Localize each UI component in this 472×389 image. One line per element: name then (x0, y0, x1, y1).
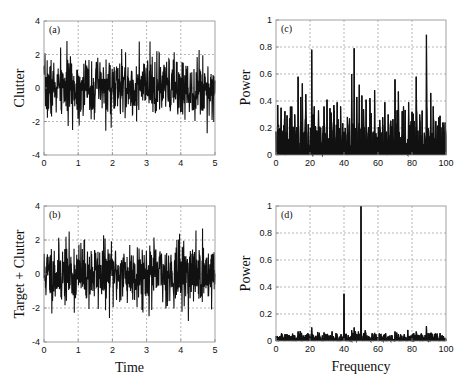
figure: 012345-4-2024(a)Clutter 012345-4-2024(b)… (0, 0, 472, 389)
x-tick-label: 0 (41, 158, 46, 168)
x-tick-label: 40 (339, 158, 349, 168)
x-tick-label: 1 (76, 158, 81, 168)
x-tick-label: 4 (178, 345, 183, 355)
panel-d-target-clutter-power-spectrum: 02040608010000.20.40.60.81(d)PowerFreque… (238, 201, 454, 374)
y-tick-label: 0.4 (259, 96, 272, 106)
y-axis-label: Power (238, 255, 253, 291)
x-tick-label: 4 (178, 158, 183, 168)
y-tick-label: 0.4 (259, 282, 272, 292)
x-tick-label: 3 (144, 158, 149, 168)
x-axis-label: Frequency (331, 359, 390, 374)
x-tick-label: 100 (438, 344, 453, 354)
y-tick-label: 2 (35, 50, 40, 60)
x-tick-label: 3 (144, 345, 149, 355)
x-tick-label: 80 (407, 344, 417, 354)
x-tick-label: 0 (273, 158, 278, 168)
panel-label: (d) (281, 209, 293, 221)
y-tick-label: 0.6 (259, 69, 272, 79)
x-tick-label: 20 (305, 158, 315, 168)
panel-b-target-clutter-time-series: 012345-4-2024(b)Target + ClutterTime (12, 201, 218, 375)
y-tick-label: 0 (267, 150, 272, 160)
x-tick-label: 100 (438, 158, 453, 168)
y-axis-label: Clutter (12, 68, 27, 107)
y-tick-label: -2 (32, 117, 40, 127)
x-tick-label: 60 (373, 344, 383, 354)
x-tick-label: 80 (407, 158, 417, 168)
y-tick-label: 0.2 (259, 123, 272, 133)
spectrum-envelope (276, 206, 446, 341)
x-axis-label: Time (115, 360, 144, 375)
y-tick-label: 0.8 (259, 228, 272, 238)
y-tick-label: 0.6 (259, 255, 272, 265)
y-tick-label: -2 (32, 303, 40, 313)
panel-c-clutter-power-spectrum: 02040608010000.20.40.60.81(c)Power (238, 15, 454, 168)
y-tick-label: 0 (267, 336, 272, 346)
x-tick-label: 60 (373, 158, 383, 168)
y-tick-label: 1 (267, 15, 272, 25)
y-tick-label: -4 (32, 150, 40, 160)
signal-trace (44, 41, 215, 133)
x-tick-label: 40 (339, 344, 349, 354)
tick-labels: 02040608010000.20.40.60.81 (259, 201, 453, 354)
panel-label: (a) (49, 24, 60, 36)
y-axis-label: Target + Clutter (12, 229, 27, 318)
x-tick-label: 5 (212, 158, 217, 168)
x-tick-label: 0 (41, 345, 46, 355)
x-tick-label: 2 (110, 345, 115, 355)
signal-trace (44, 229, 215, 321)
y-tick-label: -4 (32, 337, 40, 347)
y-tick-label: 0 (35, 269, 40, 279)
y-tick-label: 4 (35, 16, 40, 26)
panel-a-clutter-time-series: 012345-4-2024(a)Clutter (12, 16, 218, 168)
panel-label: (b) (49, 209, 61, 221)
x-tick-label: 0 (273, 344, 278, 354)
y-tick-label: 0.8 (259, 42, 272, 52)
y-axis-label: Power (238, 69, 253, 105)
x-tick-label: 5 (212, 345, 217, 355)
y-tick-label: 0 (35, 83, 40, 93)
panel-label: (c) (281, 23, 292, 35)
spectrum-envelope (276, 35, 446, 155)
y-tick-label: 0.2 (259, 309, 272, 319)
y-tick-label: 1 (267, 201, 272, 211)
x-tick-label: 20 (305, 344, 315, 354)
y-tick-label: 2 (35, 235, 40, 245)
y-tick-label: 4 (35, 201, 40, 211)
x-tick-label: 2 (110, 158, 115, 168)
x-tick-label: 1 (76, 345, 81, 355)
